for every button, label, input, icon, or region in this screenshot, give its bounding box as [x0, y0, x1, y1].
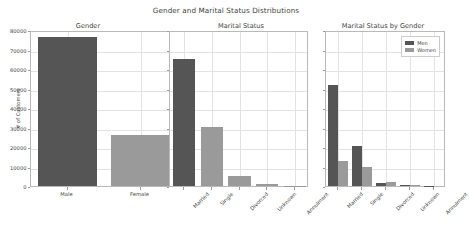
- legend-label: Women: [417, 47, 436, 53]
- gridline-horizontal: [326, 71, 444, 72]
- chart-panel-gender: Gender 010000200003000040000500006000070…: [0, 0, 176, 231]
- plot-area-marital-status-by-gender: MenWomen: [325, 31, 445, 187]
- bar: [410, 185, 420, 186]
- y-tick-mark: [167, 70, 170, 71]
- y-tick-mark: [167, 51, 170, 52]
- bar: [338, 161, 348, 186]
- gridline-horizontal: [326, 149, 444, 150]
- x-tick-label: Unknown: [276, 191, 297, 212]
- y-tick-mark: [28, 51, 31, 52]
- y-tick-mark: [323, 70, 326, 71]
- gridline-vertical: [295, 32, 296, 186]
- x-tick-label: Female: [130, 191, 149, 197]
- y-tick-label: 60000: [10, 67, 27, 73]
- bar: [38, 37, 96, 186]
- x-tick-mark: [266, 187, 267, 190]
- x-tick-label: Annulment: [444, 191, 468, 215]
- legend-item: Women: [405, 47, 436, 53]
- y-tick-mark: [167, 168, 170, 169]
- x-tick-mark: [239, 187, 240, 190]
- y-tick-mark: [323, 51, 326, 52]
- bar: [386, 182, 396, 186]
- y-tick-mark: [28, 168, 31, 169]
- bar: [173, 59, 195, 186]
- y-tick-mark: [28, 31, 31, 32]
- x-tick-mark: [183, 187, 184, 190]
- x-tick-mark: [433, 187, 434, 190]
- y-tick-mark: [28, 109, 31, 110]
- y-tick-mark: [323, 168, 326, 169]
- bar: [352, 146, 362, 186]
- x-tick-label: Married: [192, 191, 210, 209]
- x-tick-label: Single: [369, 191, 385, 207]
- legend-swatch-icon: [405, 48, 414, 53]
- bar: [111, 135, 169, 186]
- y-tick-mark: [167, 129, 170, 130]
- y-tick-label: 20000: [10, 145, 27, 151]
- plot-area-gender: [30, 31, 176, 187]
- bar: [400, 185, 410, 186]
- bar: [362, 167, 372, 186]
- gridline-horizontal: [326, 130, 444, 131]
- bar: [228, 176, 250, 186]
- x-tick-mark: [140, 187, 141, 190]
- legend-item: Men: [405, 40, 436, 46]
- y-tick-mark: [28, 70, 31, 71]
- legend-swatch-icon: [405, 41, 414, 46]
- chart-title-marital-status-by-gender: Marital Status by Gender: [314, 22, 452, 30]
- y-tick-mark: [28, 148, 31, 149]
- x-tick-mark: [337, 187, 338, 190]
- x-tick-mark: [211, 187, 212, 190]
- x-tick-label: Married: [346, 191, 364, 209]
- x-tick-label: Single: [218, 191, 234, 207]
- chart-panel-marital-status: Marital Status MarriedSingleDivorcedUnkn…: [168, 0, 314, 231]
- legend-label: Men: [417, 40, 428, 46]
- gridline-horizontal: [326, 110, 444, 111]
- gridline-vertical: [362, 32, 363, 186]
- gridline-vertical: [386, 32, 387, 186]
- x-tick-mark: [294, 187, 295, 190]
- bar: [376, 183, 386, 187]
- y-tick-mark: [323, 187, 326, 188]
- gridline-horizontal: [170, 52, 307, 53]
- x-tick-mark: [67, 187, 68, 190]
- chart-legend: MenWomen: [401, 36, 440, 57]
- x-tick-mark: [361, 187, 362, 190]
- y-tick-label: 70000: [10, 48, 27, 54]
- y-tick-mark: [323, 148, 326, 149]
- x-tick-label: Unknown: [419, 191, 440, 212]
- x-tick-label: Divorced: [395, 191, 416, 212]
- chart-title-marital-status: Marital Status: [168, 22, 314, 30]
- y-tick-mark: [167, 148, 170, 149]
- y-tick-mark: [28, 187, 31, 188]
- bar: [256, 184, 278, 186]
- y-tick-label: 0: [23, 184, 26, 190]
- y-tick-mark: [28, 90, 31, 91]
- gridline-vertical: [267, 32, 268, 186]
- y-tick-mark: [28, 129, 31, 130]
- y-tick-mark: [323, 90, 326, 91]
- y-tick-mark: [323, 31, 326, 32]
- y-axis-label: # of Customers: [15, 89, 21, 129]
- y-tick-mark: [323, 109, 326, 110]
- plot-area-marital-status: [169, 31, 308, 187]
- y-tick-mark: [167, 31, 170, 32]
- y-tick-label: 10000: [10, 165, 27, 171]
- y-tick-mark: [167, 187, 170, 188]
- bar: [328, 85, 338, 186]
- y-tick-mark: [167, 109, 170, 110]
- gridline-horizontal: [326, 91, 444, 92]
- x-tick-mark: [385, 187, 386, 190]
- y-tick-mark: [167, 90, 170, 91]
- bar: [201, 127, 223, 186]
- x-tick-mark: [409, 187, 410, 190]
- gridline-vertical: [240, 32, 241, 186]
- chart-panel-marital-status-by-gender: Marital Status by Gender MenWomen Marrie…: [314, 0, 452, 231]
- y-tick-label: 80000: [10, 28, 27, 34]
- x-tick-label: Divorced: [248, 191, 269, 212]
- y-tick-mark: [323, 129, 326, 130]
- x-tick-label: Male: [60, 191, 72, 197]
